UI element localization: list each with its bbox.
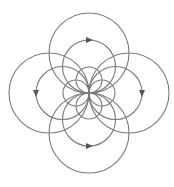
arrow-icon [86, 143, 93, 149]
field-line-down-r40 [49, 93, 129, 173]
field-line-right-r40 [89, 53, 169, 133]
arrow-icon [86, 37, 93, 43]
dipole-field-diagram [0, 0, 174, 187]
field-line-left-r40 [9, 53, 89, 133]
arrow-icon [33, 90, 39, 97]
arrow-icon [139, 90, 145, 97]
field-lines [9, 13, 169, 173]
field-line-up-r40 [49, 13, 129, 93]
